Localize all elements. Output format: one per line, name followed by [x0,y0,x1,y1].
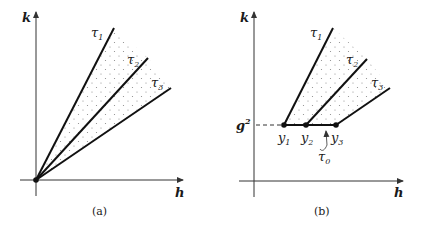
g2-label: g2 [236,116,251,133]
panel-b: k h g2 y1 y2 y3 τ0 τ1 τ2 τ3 (b) [236,10,403,218]
caption-b: (b) [314,205,330,218]
point-y2 [303,122,309,128]
y-axis-label-a: k [22,10,31,25]
y2-label: y2 [300,130,313,147]
origin-point-a [33,177,39,183]
tau0-label: τ0 [318,149,330,166]
point-y3 [333,122,339,128]
x-axis-label-b: h [394,185,403,200]
tau1-label-b: τ1 [310,25,322,42]
tau1-label-a: τ1 [91,25,103,42]
y-axis-label-b: k [240,10,249,25]
panel-a: k h τ1 τ2 τ3 (a) [20,10,184,218]
tau0-pointer-arrow [326,131,327,145]
caption-a: (a) [92,205,107,218]
x-axis-label-a: h [175,185,184,200]
y3-label: y3 [330,130,343,147]
point-y1 [281,122,287,128]
y1-label: y1 [277,130,290,147]
figure: k h τ1 τ2 τ3 (a) k h g2 y1 y2 y3 τ0 τ1 τ… [0,0,422,232]
